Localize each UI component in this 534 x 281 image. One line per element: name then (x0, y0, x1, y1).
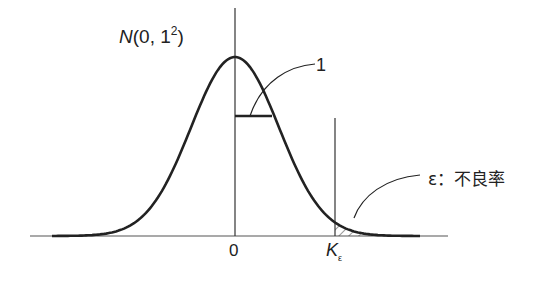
leader-eps (354, 175, 420, 218)
sigma-label: 1 (316, 55, 326, 76)
leader-1 (250, 64, 315, 116)
normal-curve-diagram (0, 0, 534, 281)
zero-tick-label: 0 (229, 241, 238, 261)
k-epsilon-label: Kε (326, 240, 342, 263)
defect-rate-label: ε：不良率 (428, 165, 505, 190)
distribution-label: N(0, 12) (119, 26, 184, 48)
normal-curve (52, 57, 420, 236)
